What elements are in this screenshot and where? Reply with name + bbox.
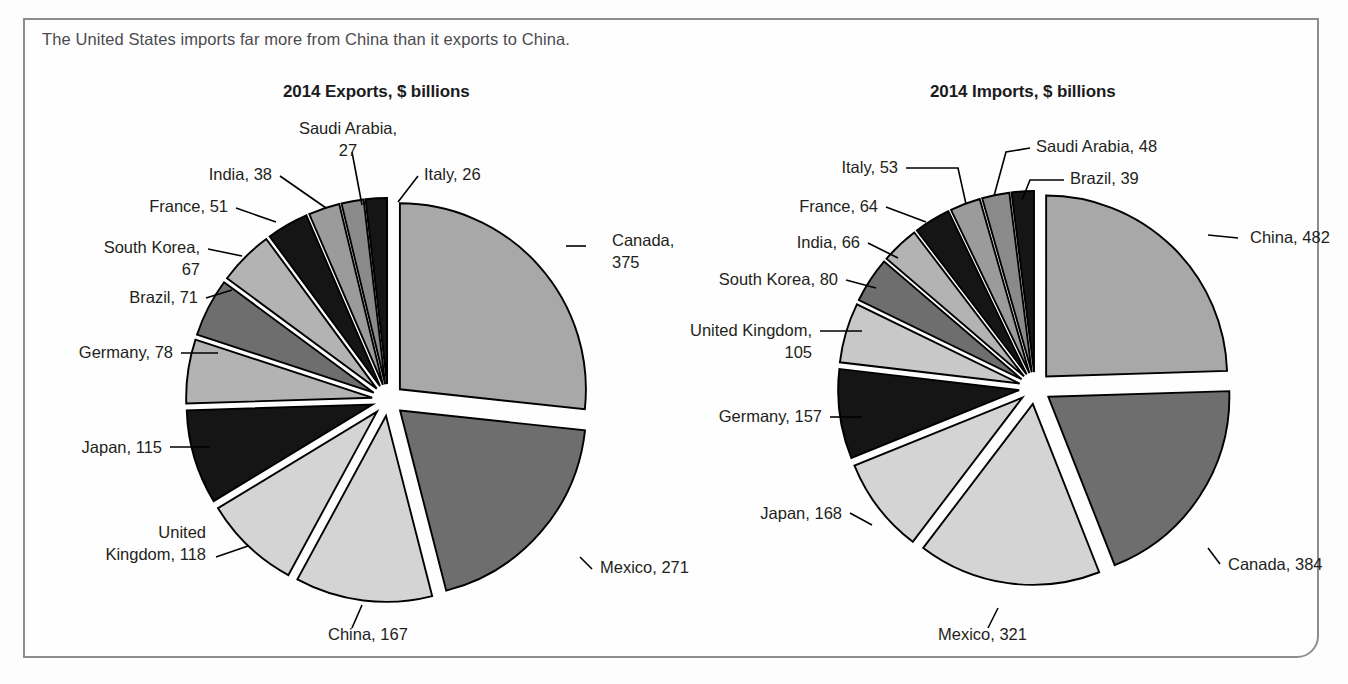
slice-label-japan: Japan, 115 (82, 438, 162, 456)
pie-charts-canvas: Canada,375Mexico, 271China, 167UnitedKin… (0, 0, 1348, 684)
leader-line-japan (850, 513, 872, 525)
slice-label-mexico: Mexico, 271 (600, 558, 689, 576)
pie-chart-exports: Canada,375Mexico, 271China, 167UnitedKin… (79, 119, 689, 643)
slice-label-india: India, 66 (797, 233, 860, 251)
leader-line-italy (398, 176, 418, 202)
slice-label-france: France, 51 (149, 197, 228, 215)
slice-label-united-kingdom: United Kingdom,105 (690, 321, 812, 361)
slice-label-united-kingdom: UnitedKingdom, 118 (105, 523, 206, 563)
leader-line-canada (1208, 548, 1220, 564)
leader-line-france (236, 208, 276, 222)
leader-line-south-korea (208, 249, 242, 256)
pie-slice-china[interactable] (1046, 196, 1227, 377)
slice-label-south-korea: South Korea, 80 (719, 270, 838, 288)
leader-line-saudi-arabia (352, 152, 362, 205)
leader-line-china (1208, 235, 1238, 238)
slice-label-saudi-arabia: Saudi Arabia, 48 (1036, 137, 1157, 155)
pie-slice-canada[interactable] (400, 203, 586, 409)
slice-label-italy: Italy, 53 (841, 158, 898, 176)
leader-line-india (280, 176, 326, 208)
slice-label-japan: Japan, 168 (760, 504, 842, 522)
leader-line-mexico (580, 557, 592, 569)
slice-label-france: France, 64 (799, 197, 878, 215)
slice-label-brazil: Brazil, 71 (129, 288, 198, 306)
slice-label-canada: Canada,375 (612, 231, 674, 271)
pie-chart-imports: China, 482Canada, 384Mexico, 321Japan, 1… (690, 137, 1330, 643)
slice-label-canada: Canada, 384 (1228, 555, 1323, 573)
leader-line-united-kingdom (216, 546, 248, 557)
slice-label-italy: Italy, 26 (424, 165, 481, 183)
slice-label-china: China, 482 (1250, 228, 1330, 246)
slice-label-india: India, 38 (209, 165, 272, 183)
page-root: The United States imports far more from … (0, 0, 1348, 684)
leader-line-saudi-arabia (994, 148, 1030, 196)
slice-label-china: China, 167 (328, 625, 408, 643)
slice-label-saudi-arabia: Saudi Arabia,27 (299, 119, 397, 159)
slice-label-germany: Germany, 78 (79, 343, 173, 361)
slice-label-brazil: Brazil, 39 (1070, 169, 1139, 187)
leader-line-france (886, 207, 926, 222)
slice-label-mexico: Mexico, 321 (938, 625, 1027, 643)
slice-label-germany: Germany, 157 (719, 407, 822, 425)
leader-line-italy (906, 168, 966, 204)
pie-slice-mexico[interactable] (400, 410, 585, 590)
slice-label-south-korea: South Korea,67 (104, 238, 200, 278)
